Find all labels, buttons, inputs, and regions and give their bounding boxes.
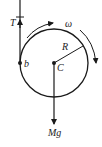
label-tension: T [10, 18, 16, 28]
radius-line [54, 46, 83, 63]
label-point-b: b [24, 59, 29, 69]
label-omega: ω [65, 19, 72, 29]
label-center-c: C [57, 63, 64, 73]
point-b [18, 61, 22, 65]
label-radius: R [62, 42, 68, 52]
rotation-arrow-top [27, 23, 53, 38]
label-weight: Mg [48, 128, 61, 138]
